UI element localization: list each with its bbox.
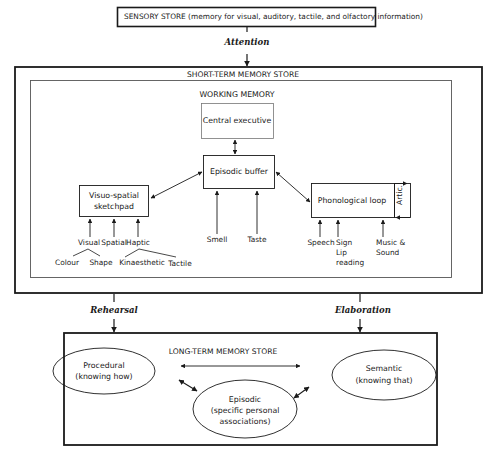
episodic-desc-line2: associations) (220, 418, 271, 426)
semantic-desc: (knowing that) (355, 377, 412, 385)
episodic-desc-line1: (specific personal (211, 407, 280, 415)
colour-input: Colour (55, 259, 79, 266)
visuo-spatial-sketchpad-line1: Visuo-spatial (89, 192, 139, 200)
phonological-loop: Phonological loop (318, 197, 387, 205)
long-term-memory-title: LONG-TERM MEMORY STORE (169, 348, 277, 356)
visual-input: Visual (78, 239, 100, 246)
haptic-input: Haptic (126, 239, 150, 246)
semantic-name: Semantic (366, 365, 403, 373)
sign-input: Sign (336, 239, 352, 246)
shape-input: Shape (89, 259, 112, 266)
episodic-name: Episodic (229, 396, 261, 404)
lip-input: Lip (336, 249, 347, 256)
short-term-memory-title: SHORT-TERM MEMORY STORE (187, 71, 299, 79)
music-input: Music & (376, 239, 405, 246)
procedural-desc: (knowing how) (75, 373, 132, 381)
elaboration-label: Elaboration (335, 306, 391, 315)
sound-input: Sound (376, 249, 399, 256)
reading-input: reading (336, 259, 364, 266)
diagram-connectors (0, 0, 494, 452)
visuo-spatial-sketchpad-line2: sketchpad (94, 203, 134, 211)
rehearsal-label: Rehearsal (90, 306, 138, 315)
working-memory-title: WORKING MEMORY (199, 91, 274, 99)
sensory-store-label: SENSORY STORE (memory for visual, audito… (124, 13, 423, 20)
spatial-input: Spatial (101, 239, 126, 246)
speech-input: Speech (307, 239, 334, 246)
smell-input: Smell (207, 236, 228, 243)
attention-label: Attention (225, 38, 270, 47)
taste-input: Taste (247, 236, 266, 243)
tactile-input: Tactile (168, 260, 191, 267)
procedural-name: Procedural (83, 362, 125, 370)
episodic-buffer: Episodic buffer (210, 168, 268, 176)
artic-label: Artic. (396, 185, 404, 205)
kinaesthetic-input: Kinaesthetic (119, 259, 165, 266)
central-executive: Central executive (203, 117, 272, 125)
